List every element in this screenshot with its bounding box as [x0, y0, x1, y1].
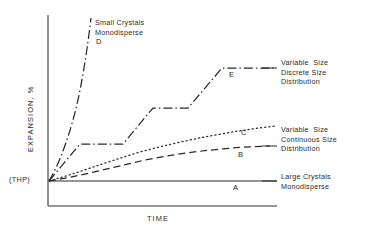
curve-b-line — [49, 146, 270, 181]
curve-label-d: D — [96, 37, 102, 46]
y-axis-title: EXPANSION, % — [26, 86, 35, 152]
curve-e-line — [49, 68, 277, 181]
curve-label-e: E — [229, 70, 234, 79]
annotation-variable-size-discrete: Variable Size Discrete Size Distribution — [281, 58, 328, 87]
curve-label-b: B — [238, 150, 243, 159]
curve-label-c: C — [241, 128, 247, 137]
curve-d-line — [49, 18, 91, 181]
annotation-large-crystals-monodisperse: Large Crystals Monodisperse — [281, 172, 331, 191]
x-axis-title: TIME — [147, 214, 169, 223]
figure-root: EXPANSION, % TIME (THP) Small Crystals M… — [0, 0, 373, 235]
annotation-small-crystals-monodisperse: Small Crystals Monodisperse — [95, 18, 144, 37]
axis-group — [48, 15, 277, 206]
chart-canvas — [0, 0, 373, 235]
origin-thp-label: (THP) — [9, 175, 30, 185]
annotation-variable-size-continuous: Variable Size Continuous Size Distributi… — [281, 125, 337, 154]
curve-label-a: A — [233, 183, 238, 192]
